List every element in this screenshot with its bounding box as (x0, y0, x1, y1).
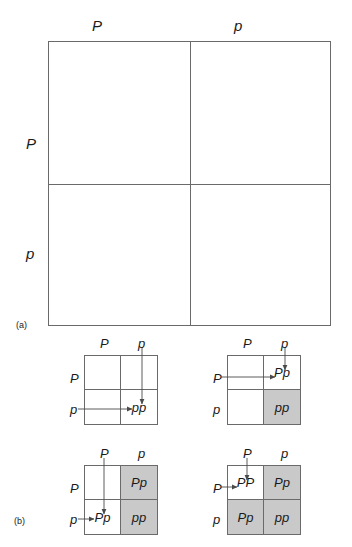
square-4-cell-bottom-right: pp (264, 500, 300, 534)
square-3-cell-bottom-left-label: Pp (95, 511, 111, 524)
square-1-cell-top-left (85, 356, 121, 390)
square-4-row-header-2: p (213, 513, 220, 526)
square-3-row-header-1: P (70, 482, 79, 495)
square-2-column-header-2: p (281, 337, 288, 350)
panel-a-punnett-square (48, 41, 331, 326)
panel-b-letter: (b) (14, 516, 25, 526)
square-4-cell-bottom-left: Pp (228, 500, 264, 534)
square-2-cell-bottom-right-label: pp (275, 401, 289, 414)
square-2-cell-top-left (228, 356, 264, 390)
square-2-column-header-1: P (243, 337, 252, 350)
square-4-cell-bottom-left-label: Pp (238, 511, 254, 524)
panel-a-column-header-1: P (92, 18, 102, 33)
square-2-cell-top-right-label: Pp (274, 366, 290, 379)
punnett-square-figure: P p P p (a) (b) P p P p (0, 0, 352, 547)
square-3-column-header-1: P (100, 447, 109, 460)
square-3-cell-bottom-left: Pp (85, 500, 121, 534)
panel-a-column-header-2: p (234, 18, 242, 33)
panel-a-letter: (a) (16, 320, 27, 330)
square-4: PP Pp Pp pp (227, 465, 301, 535)
square-4-column-header-1: P (243, 447, 252, 460)
square-1-column-header-2: p (138, 337, 145, 350)
square-1-cell-bottom-right: pp (121, 390, 157, 424)
square-4-cell-top-right-label: Pp (274, 476, 290, 489)
square-1-cell-bottom-right-label: pp (132, 401, 146, 414)
square-3-cell-bottom-right: pp (121, 500, 157, 534)
square-4-cell-top-left: PP (228, 466, 264, 500)
panel-a-row-header-1: P (26, 136, 36, 151)
square-4-cell-top-left-label: PP (237, 476, 254, 489)
panel-a-horizontal-divider (49, 184, 330, 185)
square-1: pp (84, 355, 158, 425)
square-3-row-header-2: p (70, 513, 77, 526)
square-2-row-header-1: P (213, 372, 222, 385)
square-1-column-header-1: P (100, 337, 109, 350)
panel-a-row-header-2: p (26, 246, 34, 261)
square-3-cell-top-left (85, 466, 121, 500)
square-2: Pp pp (227, 355, 301, 425)
square-3: Pp Pp pp (84, 465, 158, 535)
square-1-cell-bottom-left (85, 390, 121, 424)
square-1-row-header-1: P (70, 372, 79, 385)
square-1-cell-top-right (121, 356, 157, 390)
square-4-row-header-1: P (213, 482, 222, 495)
square-4-column-header-2: p (281, 447, 288, 460)
square-1-row-header-2: p (70, 403, 77, 416)
square-2-cell-bottom-right: pp (264, 390, 300, 424)
square-3-cell-top-right: Pp (121, 466, 157, 500)
square-2-cell-top-right: Pp (264, 356, 300, 390)
square-3-column-header-2: p (138, 447, 145, 460)
square-2-row-header-2: p (213, 403, 220, 416)
square-3-cell-bottom-right-label: pp (132, 511, 146, 524)
square-4-cell-bottom-right-label: pp (275, 511, 289, 524)
square-3-cell-top-right-label: Pp (131, 476, 147, 489)
square-4-cell-top-right: Pp (264, 466, 300, 500)
square-2-cell-bottom-left (228, 390, 264, 424)
